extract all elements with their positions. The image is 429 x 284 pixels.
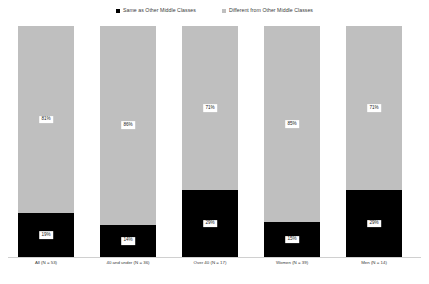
legend-label: Same as Other Middle Classes bbox=[123, 8, 196, 13]
bar-stack[interactable]: 71% 29% bbox=[346, 26, 402, 257]
data-label-different: 85% bbox=[285, 120, 299, 128]
axis-baseline bbox=[8, 257, 421, 258]
bar-segment-same[interactable]: 19% bbox=[18, 213, 74, 257]
category-label-men: Men (N = 14) bbox=[361, 261, 387, 265]
data-label-same: 19% bbox=[39, 231, 53, 239]
bar-segment-same[interactable]: 29% bbox=[346, 190, 402, 257]
bar-stack[interactable]: 86% 14% bbox=[100, 26, 156, 257]
bar-segment-different[interactable]: 71% bbox=[182, 26, 238, 190]
bar-stack[interactable]: 85% 15% bbox=[264, 26, 320, 257]
bar-segment-same[interactable]: 15% bbox=[264, 222, 320, 257]
bar-segment-different[interactable]: 85% bbox=[264, 26, 320, 222]
bar-group: 81% 19% All (N = 53) bbox=[18, 26, 74, 257]
data-label-same: 29% bbox=[203, 220, 217, 228]
bar-group: 71% 29% Over 40 (N = 17) bbox=[182, 26, 238, 257]
category-label-40-and-under: 40 and under (N = 36) bbox=[106, 261, 149, 265]
stacked-bar-chart: Same as Other Middle Classes Different f… bbox=[0, 0, 429, 284]
bar-segment-different[interactable]: 81% bbox=[18, 26, 74, 213]
data-label-same: 29% bbox=[367, 220, 381, 228]
legend-label: Different from Other Middle Classes bbox=[229, 8, 313, 13]
bar-segment-same[interactable]: 14% bbox=[100, 225, 156, 257]
legend-swatch-light-icon bbox=[222, 9, 226, 13]
bar-segment-different[interactable]: 86% bbox=[100, 26, 156, 225]
bar-segment-same[interactable]: 29% bbox=[182, 190, 238, 257]
data-label-same: 14% bbox=[121, 237, 135, 245]
category-label-all: All (N = 53) bbox=[35, 261, 57, 265]
category-label-over-40: Over 40 (N = 17) bbox=[194, 261, 227, 265]
data-label-same: 15% bbox=[285, 236, 299, 244]
bar-group: 71% 29% Men (N = 14) bbox=[346, 26, 402, 257]
legend-swatch-dark-icon bbox=[116, 9, 120, 13]
legend-item-same-as-other-middle-classes[interactable]: Same as Other Middle Classes bbox=[116, 8, 196, 13]
data-label-different: 81% bbox=[39, 116, 53, 124]
legend-item-different-from-other-middle-classes[interactable]: Different from Other Middle Classes bbox=[222, 8, 313, 13]
bar-stack[interactable]: 81% 19% bbox=[18, 26, 74, 257]
plot-area: 81% 19% All (N = 53) 86% 14% 40 and unde… bbox=[0, 26, 429, 258]
bar-group: 86% 14% 40 and under (N = 36) bbox=[100, 26, 156, 257]
data-label-different: 71% bbox=[203, 104, 217, 112]
bar-group: 85% 15% Women (N = 39) bbox=[264, 26, 320, 257]
category-label-women: Women (N = 39) bbox=[276, 261, 308, 265]
bar-segment-different[interactable]: 71% bbox=[346, 26, 402, 190]
data-label-different: 71% bbox=[367, 104, 381, 112]
bar-stack[interactable]: 71% 29% bbox=[182, 26, 238, 257]
chart-legend: Same as Other Middle Classes Different f… bbox=[0, 8, 429, 13]
data-label-different: 86% bbox=[121, 121, 135, 129]
